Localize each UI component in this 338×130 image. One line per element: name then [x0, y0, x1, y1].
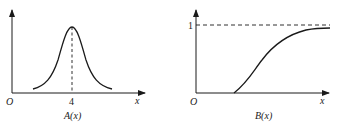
- bell-curve-a: [33, 27, 112, 89]
- figure-b: 1 O x B(x): [188, 10, 330, 122]
- figure-canvas: O 4 x A(x) 1 O x B(x): [0, 0, 338, 130]
- x-axis-label-b: x: [319, 95, 325, 106]
- s-curve-b: [234, 28, 330, 93]
- tick-label-4: 4: [69, 96, 74, 107]
- y-tick-label-1: 1: [188, 20, 193, 31]
- origin-label-a: O: [6, 96, 13, 107]
- caption-a: A(x): [63, 110, 82, 122]
- x-axis-label-a: x: [134, 95, 140, 106]
- origin-label-b: O: [190, 96, 197, 107]
- caption-b: B(x): [255, 110, 273, 122]
- figure-a: O 4 x A(x): [6, 10, 145, 122]
